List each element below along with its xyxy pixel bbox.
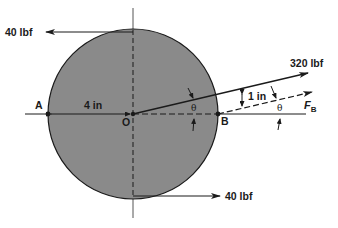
theta-inner-label: θ <box>191 103 196 113</box>
free-body-diagram: 4 in A O B 320 lbf FB 1 in θ θ 40 lbf 40… <box>0 0 338 228</box>
label-B: B <box>221 115 229 127</box>
force-FB-subscript: B <box>311 105 317 114</box>
force-FB-label: FB <box>304 99 317 114</box>
label-A: A <box>35 99 43 111</box>
force-top-40-label: 40 lbf <box>5 26 33 38</box>
offset-dimension-label: 1 in <box>248 90 266 102</box>
label-O: O <box>122 116 130 128</box>
theta-outer-tick-bottom <box>278 119 280 130</box>
offset-dimension-right <box>271 86 276 98</box>
point-A <box>46 112 51 117</box>
force-bottom-40-label: 40 lbf <box>225 190 253 202</box>
force-320-label: 320 lbf <box>290 57 324 69</box>
radius-dimension-label: 4 in <box>84 99 102 111</box>
theta-outer-label: θ <box>277 103 282 113</box>
